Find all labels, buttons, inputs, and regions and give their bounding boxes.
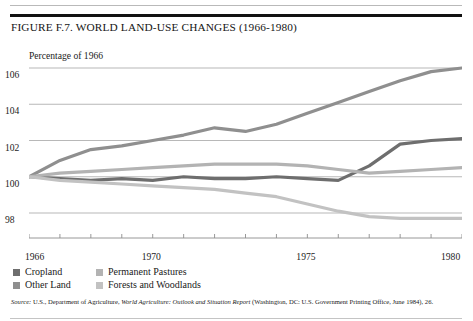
legend-label-permanent-pastures: Permanent Pastures [108,266,187,278]
bottom-rule [10,318,462,319]
legend-label-cropland: Cropland [25,266,62,278]
legend-item-other-land[interactable]: Other Land [13,279,96,291]
legend-row-1: Cropland Permanent Pastures [13,266,313,279]
source-text-1: U.S., Department of Agriculture, [31,298,121,305]
source-prefix: Source: [11,298,31,305]
x-tick-label-1975: 1975 [296,251,315,262]
legend-swatch-other-land [13,282,20,289]
x-tick-label-1970: 1970 [142,251,161,262]
figure-page: FIGURE F.7. WORLD LAND-USE CHANGES (1966… [0,0,473,321]
chart-legend: Cropland Permanent Pastures Other Land F… [13,266,313,292]
y-tick-label-104: 104 [5,105,19,116]
legend-item-permanent-pastures[interactable]: Permanent Pastures [96,266,187,278]
legend-swatch-forests-and-woodlands [96,282,103,289]
x-tick-label-1966: 1966 [25,251,44,262]
line-chart [29,62,462,248]
legend-swatch-cropland [13,269,20,276]
y-tick-label-98: 98 [5,214,15,225]
y-tick-label-102: 102 [5,142,19,153]
legend-label-forests-and-woodlands: Forests and Woodlands [108,279,201,291]
series-line-permanent-pastures [29,164,462,177]
legend-swatch-permanent-pastures [96,269,103,276]
legend-item-cropland[interactable]: Cropland [13,266,96,278]
legend-label-other-land: Other Land [25,279,71,291]
legend-item-forests-and-woodlands[interactable]: Forests and Woodlands [96,279,201,291]
source-publication: World Agriculture: Outlook and Situation… [121,298,250,305]
chart-plot-area [29,62,462,248]
series-line-forests-and-woodlands [29,177,462,219]
series-line-cropland [29,139,462,181]
top-thin-rule [10,5,462,6]
figure-title: FIGURE F.7. WORLD LAND-USE CHANGES (1966… [11,21,297,33]
y-axis-caption: Percentage of 1966 [29,50,103,61]
x-tick-label-1980: 1980 [441,251,460,262]
top-thick-rule [10,14,462,17]
source-note: Source: U.S., Department of Agriculture,… [11,298,463,307]
series-line-other-land [29,68,462,177]
source-text-2: (Washington, DC: U.S. Government Printin… [250,298,433,305]
y-tick-label-106: 106 [5,69,19,80]
y-tick-label-100: 100 [5,178,19,189]
legend-row-2: Other Land Forests and Woodlands [13,279,313,292]
